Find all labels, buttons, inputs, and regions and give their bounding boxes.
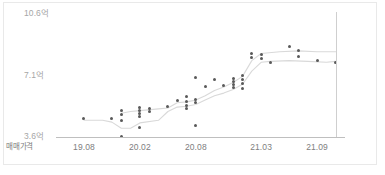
scatter-point (260, 53, 263, 56)
y-tick-label: 10.6억 (24, 8, 49, 18)
y-tick-label: 7.1억 (24, 70, 44, 80)
scatter-point (297, 55, 300, 58)
scatter-chart-widget: 3.6억7.1억10.6억 19.0820.0220.0821.0321.09 … (0, 0, 385, 175)
scatter-point (260, 57, 263, 60)
scatter-point (269, 61, 272, 64)
y-tick-label: 3.6억 (24, 131, 44, 141)
vertical-marker-line (336, 12, 337, 137)
x-tick-label: 20.08 (176, 142, 216, 152)
scatter-point (250, 56, 253, 59)
scatter-point (148, 110, 151, 113)
scatter-point (120, 109, 123, 112)
x-tick-label: 19.08 (64, 142, 104, 152)
trend-line (121, 51, 335, 113)
scatter-point (176, 99, 179, 102)
scatter-point (120, 113, 123, 116)
x-tick-label: 21.09 (297, 142, 337, 152)
scatter-point (241, 78, 244, 81)
scatter-point (288, 45, 291, 48)
scatter-point (241, 82, 244, 85)
scatter-point (120, 119, 123, 122)
scatter-point (185, 107, 188, 110)
x-tick-label: 21.03 (241, 142, 281, 152)
plot-area: 3.6억7.1억10.6억 19.0820.0220.0821.0321.09 … (0, 0, 385, 175)
x-tick-label: 20.02 (120, 142, 160, 152)
x-axis-caption-label: 매매가격 (6, 142, 33, 152)
x-axis-line (56, 137, 345, 138)
scatter-point (316, 59, 319, 62)
scatter-point (241, 74, 244, 77)
scatter-point (213, 78, 216, 81)
